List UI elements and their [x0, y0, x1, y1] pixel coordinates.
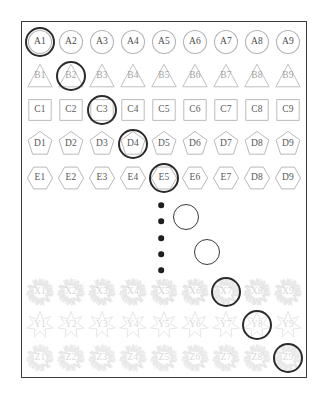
node-e4[interactable]: E4 — [118, 163, 148, 193]
node-b4[interactable]: B4 — [118, 61, 148, 91]
node-c5[interactable]: C5 — [149, 95, 179, 125]
node-d6[interactable]: D6 — [180, 129, 210, 159]
node-label: X2 — [56, 277, 86, 307]
node-b1[interactable]: B1 — [25, 61, 55, 91]
highlight-y8[interactable] — [242, 310, 272, 340]
node-y6[interactable]: Y6 — [180, 310, 210, 340]
node-y9[interactable]: Y9 — [273, 310, 303, 340]
node-y1[interactable]: Y1 — [25, 310, 55, 340]
node-x9[interactable]: X9 — [273, 277, 303, 307]
highlight-a1[interactable] — [25, 27, 55, 57]
node-z5[interactable]: Z5 — [149, 343, 179, 373]
node-b7[interactable]: B7 — [211, 61, 241, 91]
node-z7[interactable]: Z7 — [211, 343, 241, 373]
node-label: A7 — [211, 27, 241, 57]
node-c8[interactable]: C8 — [242, 95, 272, 125]
node-b9[interactable]: B9 — [273, 61, 303, 91]
node-label: E3 — [87, 163, 117, 193]
node-e1[interactable]: E1 — [25, 163, 55, 193]
node-a9[interactable]: A9 — [273, 27, 303, 57]
node-label: A2 — [56, 27, 86, 57]
node-d8[interactable]: D8 — [242, 129, 272, 159]
node-x2[interactable]: X2 — [56, 277, 86, 307]
node-label: Z2 — [56, 343, 86, 373]
node-y4[interactable]: Y4 — [118, 310, 148, 340]
node-label: C2 — [56, 95, 86, 125]
node-b5[interactable]: B5 — [149, 61, 179, 91]
node-c2[interactable]: C2 — [56, 95, 86, 125]
node-label: D9 — [273, 163, 303, 193]
node-label: C8 — [242, 95, 272, 125]
ellipsis-dot-2 — [158, 218, 164, 224]
node-label: Y2 — [56, 310, 86, 340]
node-c4[interactable]: C4 — [118, 95, 148, 125]
node-c9[interactable]: C9 — [273, 95, 303, 125]
node-a8[interactable]: A8 — [242, 27, 272, 57]
continuation-circle-2[interactable] — [194, 239, 220, 265]
node-d7[interactable]: D7 — [211, 129, 241, 159]
node-x4[interactable]: X4 — [118, 277, 148, 307]
node-label: B5 — [149, 61, 179, 91]
node-c1[interactable]: C1 — [25, 95, 55, 125]
node-label: B3 — [87, 61, 117, 91]
node-e3[interactable]: E3 — [87, 163, 117, 193]
node-label: C7 — [211, 95, 241, 125]
node-x5[interactable]: X5 — [149, 277, 179, 307]
node-x8[interactable]: X8 — [242, 277, 272, 307]
node-d5[interactable]: D5 — [149, 129, 179, 159]
node-a5[interactable]: A5 — [149, 27, 179, 57]
node-b8[interactable]: B8 — [242, 61, 272, 91]
node-label: Y3 — [87, 310, 117, 340]
node-d1[interactable]: D1 — [25, 129, 55, 159]
node-d3[interactable]: D3 — [87, 129, 117, 159]
node-b3[interactable]: B3 — [87, 61, 117, 91]
highlight-z9[interactable] — [273, 343, 303, 373]
node-y7[interactable]: Y7 — [211, 310, 241, 340]
node-a3[interactable]: A3 — [87, 27, 117, 57]
node-label: D2 — [56, 129, 86, 159]
node-y2[interactable]: Y2 — [56, 310, 86, 340]
node-d9[interactable]: D9 — [273, 129, 303, 159]
highlight-c3[interactable] — [87, 95, 117, 125]
highlight-e5[interactable] — [149, 163, 179, 193]
node-a7[interactable]: A7 — [211, 27, 241, 57]
node-e6[interactable]: E6 — [180, 163, 210, 193]
node-label: E7 — [211, 163, 241, 193]
node-x1[interactable]: X1 — [25, 277, 55, 307]
node-z1[interactable]: Z1 — [25, 343, 55, 373]
highlight-b2[interactable] — [56, 61, 86, 91]
node-z6[interactable]: Z6 — [180, 343, 210, 373]
node-e2[interactable]: E2 — [56, 163, 86, 193]
node-y3[interactable]: Y3 — [87, 310, 117, 340]
node-c7[interactable]: C7 — [211, 95, 241, 125]
node-b6[interactable]: B6 — [180, 61, 210, 91]
highlight-x7[interactable] — [211, 277, 241, 307]
node-label: X5 — [149, 277, 179, 307]
node-label: B8 — [242, 61, 272, 91]
node-y5[interactable]: Y5 — [149, 310, 179, 340]
node-label: Z6 — [180, 343, 210, 373]
node-label: D1 — [25, 129, 55, 159]
continuation-circle-1[interactable] — [173, 204, 199, 230]
node-x6[interactable]: X6 — [180, 277, 210, 307]
node-a2[interactable]: A2 — [56, 27, 86, 57]
node-a4[interactable]: A4 — [118, 27, 148, 57]
node-d8[interactable]: D8 — [242, 163, 272, 193]
node-x3[interactable]: X3 — [87, 277, 117, 307]
node-label: D7 — [211, 129, 241, 159]
node-z4[interactable]: Z4 — [118, 343, 148, 373]
node-d2[interactable]: D2 — [56, 129, 86, 159]
node-z8[interactable]: Z8 — [242, 343, 272, 373]
node-a6[interactable]: A6 — [180, 27, 210, 57]
node-z3[interactable]: Z3 — [87, 343, 117, 373]
ellipsis-dot-1 — [158, 202, 164, 208]
node-e7[interactable]: E7 — [211, 163, 241, 193]
highlight-d4[interactable] — [118, 129, 148, 159]
node-z2[interactable]: Z2 — [56, 343, 86, 373]
node-label: Z5 — [149, 343, 179, 373]
node-label: B6 — [180, 61, 210, 91]
ellipsis-dot-5 — [158, 267, 164, 273]
node-d9[interactable]: D9 — [273, 163, 303, 193]
node-c6[interactable]: C6 — [180, 95, 210, 125]
node-label: C4 — [118, 95, 148, 125]
